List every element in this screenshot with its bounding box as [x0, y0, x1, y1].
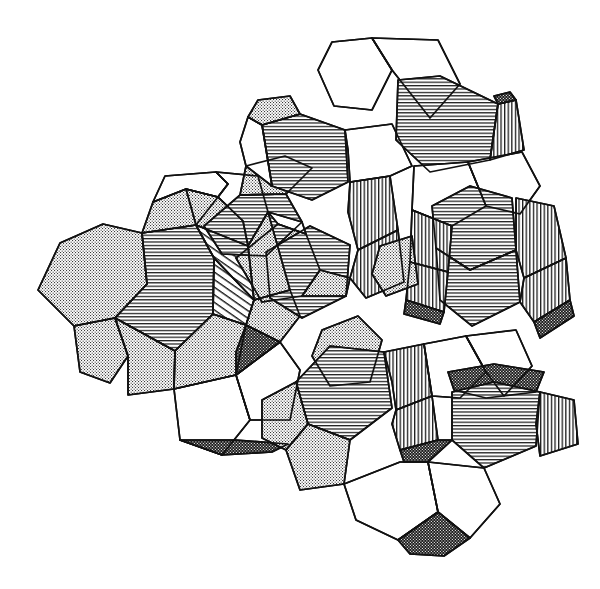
figure-root: Cluster of interpenetrating truncated po… — [0, 0, 600, 589]
polyhedra-diagram: Cluster of interpenetrating truncated po… — [0, 0, 600, 589]
